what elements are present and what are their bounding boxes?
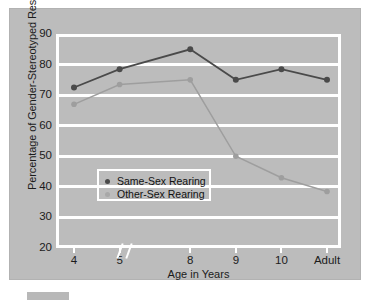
data-point [324, 77, 330, 83]
data-point [278, 66, 284, 72]
y-tick-label-80: 80 [39, 59, 52, 71]
x-tick-label-9: 9 [233, 255, 239, 267]
data-point [117, 82, 123, 88]
y-tick-label-60: 60 [39, 120, 52, 132]
x-tick-label-4: 4 [71, 255, 77, 267]
y-tick-label-40: 40 [39, 181, 52, 193]
y-tick-label-30: 30 [39, 212, 52, 224]
x-tick-mark-Adult [326, 248, 328, 253]
legend-label-other-sex-rearing: Other-Sex Rearing [117, 189, 205, 200]
legend-dot-other-sex-rearing [105, 192, 110, 197]
y-tick-label-50: 50 [39, 151, 52, 163]
x-axis-break-icon [115, 243, 139, 259]
x-axis-title: Age in Years [56, 268, 341, 280]
y-tick-label-90: 90 [39, 28, 52, 40]
x-tick-mark-10 [280, 248, 282, 253]
x-tick-label-10: 10 [275, 255, 288, 267]
x-tick-mark-9 [235, 248, 237, 253]
legend-item-other-sex-rearing: Other-Sex Rearing [105, 188, 203, 200]
plot-area: Same-Sex Rearing Other-Sex Rearing [56, 34, 341, 248]
data-point [117, 66, 123, 72]
legend-label-same-sex-rearing: Same-Sex Rearing [117, 176, 206, 187]
data-point [71, 85, 77, 91]
data-point [233, 153, 239, 159]
data-point [71, 102, 77, 108]
data-point [324, 189, 330, 195]
figure-container: Percentage of Gender-Stereotyped Respons… [0, 0, 370, 305]
legend-item-same-sex-rearing: Same-Sex Rearing [105, 175, 203, 187]
legend-dot-same-sex-rearing [105, 179, 110, 184]
y-tick-label-70: 70 [39, 89, 52, 101]
series-line-same-sex-rearing [74, 49, 327, 87]
y-axis-ticks: 2030405060708090 [28, 34, 52, 248]
data-point [187, 46, 193, 52]
data-point [187, 77, 193, 83]
x-tick-label-8: 8 [187, 255, 193, 267]
data-point [233, 77, 239, 83]
x-tick-mark-8 [189, 248, 191, 253]
footer-swatch [27, 292, 69, 300]
x-axis-ticks: 458910Adult [56, 248, 341, 270]
data-point [279, 175, 285, 181]
legend: Same-Sex Rearing Other-Sex Rearing [97, 169, 211, 201]
x-tick-mark-4 [73, 248, 75, 253]
y-tick-label-20: 20 [39, 242, 52, 254]
series-lines [56, 34, 341, 248]
x-tick-label-Adult: Adult [314, 255, 340, 267]
